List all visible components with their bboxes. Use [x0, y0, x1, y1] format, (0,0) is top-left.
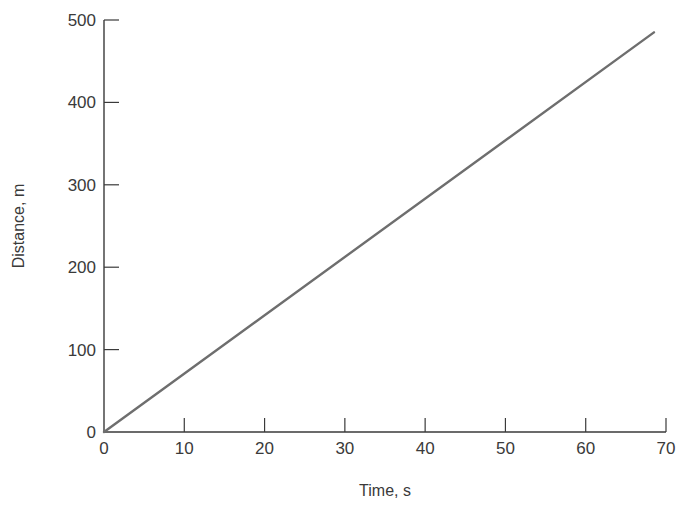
y-tick-label: 500	[68, 11, 96, 30]
y-tick-label: 400	[68, 93, 96, 112]
x-tick-label: 40	[416, 439, 435, 458]
y-tick-label: 300	[68, 176, 96, 195]
x-axis-title: Time, s	[359, 482, 411, 499]
plot-series	[104, 32, 654, 432]
data-line-distance	[104, 32, 654, 432]
y-tick-label: 200	[68, 258, 96, 277]
x-tick-label: 50	[496, 439, 515, 458]
x-tick-label: 30	[335, 439, 354, 458]
x-tick-label: 70	[657, 439, 676, 458]
x-axis: 010203040506070	[99, 418, 675, 458]
y-tick-label: 0	[87, 423, 96, 442]
y-tick-label: 100	[68, 341, 96, 360]
x-tick-label: 60	[576, 439, 595, 458]
x-tick-label: 20	[255, 439, 274, 458]
y-axis-title: Distance, m	[10, 184, 27, 268]
x-tick-label: 10	[175, 439, 194, 458]
distance-time-chart: 010203040506070 0100200300400500 Time, s…	[0, 0, 685, 512]
y-axis: 0100200300400500	[68, 11, 119, 442]
x-tick-label: 0	[99, 439, 108, 458]
